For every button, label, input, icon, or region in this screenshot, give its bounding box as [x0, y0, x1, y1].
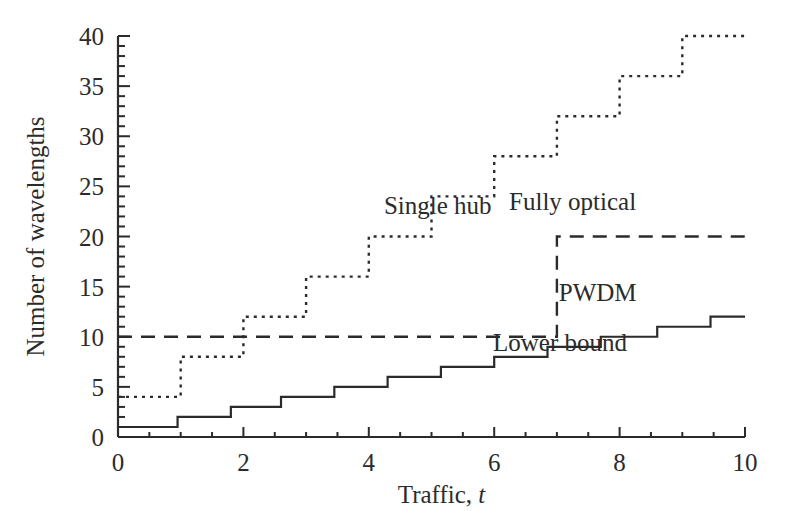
y-tick-label: 10 — [79, 324, 104, 351]
x-axis-title-text: Traffic, — [398, 481, 479, 508]
y-tick-label: 40 — [79, 23, 104, 50]
y-tick-label: 25 — [79, 173, 104, 200]
y-tick-label: 30 — [79, 123, 104, 150]
y-tick-label: 15 — [79, 274, 104, 301]
x-tick-label: 4 — [363, 449, 376, 476]
axes-group: 02468100510152025303540 — [79, 23, 758, 476]
chart-canvas: 02468100510152025303540 Single hubFully … — [0, 0, 799, 531]
x-tick-label: 2 — [237, 449, 250, 476]
x-tick-label: 0 — [112, 449, 125, 476]
series-line-fully-optical — [118, 237, 745, 337]
series-label-pwdm: PWDM — [559, 279, 637, 306]
y-tick-label: 20 — [79, 224, 104, 251]
series-label-single-hub: Single hub — [384, 192, 492, 219]
y-tick-label: 5 — [92, 374, 105, 401]
x-tick-label: 8 — [613, 449, 626, 476]
x-tick-label: 10 — [733, 449, 758, 476]
x-axis-title: Traffic, t — [398, 481, 487, 508]
x-tick-label: 6 — [488, 449, 501, 476]
chart-figure: 02468100510152025303540 Single hubFully … — [0, 0, 799, 531]
series-group — [118, 36, 745, 427]
x-axis-title-symbol: t — [478, 481, 486, 508]
y-tick-label: 35 — [79, 73, 104, 100]
y-axis-title: Number of wavelengths — [22, 116, 49, 356]
series-label-lower-bound: Lower bound — [493, 329, 627, 356]
y-tick-label: 0 — [92, 424, 105, 451]
series-line-pwdm — [118, 317, 745, 427]
series-label-fully-optical: Fully optical — [509, 188, 636, 215]
